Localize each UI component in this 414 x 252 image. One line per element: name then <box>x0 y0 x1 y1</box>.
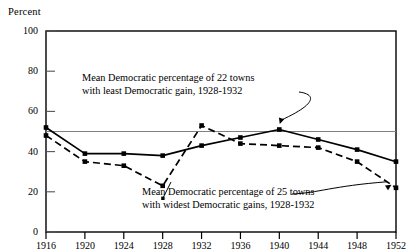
series-marker-1 <box>122 151 127 156</box>
series-marker-1 <box>160 153 165 158</box>
series-line-1 <box>46 128 396 162</box>
x-tick-label: 1940 <box>259 240 299 251</box>
y-tick-label: 20 <box>10 186 38 197</box>
x-tick-label: 1948 <box>337 240 377 251</box>
series-marker-2 <box>44 133 49 138</box>
y-tick-label: 40 <box>10 146 38 157</box>
series-marker-2 <box>355 159 360 164</box>
annotation-least-gain-line1: Mean Democratic percentage of 22 towns <box>82 72 254 85</box>
annotation-widest-gain-line2: with widest Democratic gains, 1928-1932 <box>142 199 314 212</box>
x-tick-label: 1916 <box>26 240 66 251</box>
chart-figure: Percent 020406080100 1916192019241928193… <box>0 0 414 252</box>
series-marker-1 <box>199 143 204 148</box>
series-line-2 <box>46 126 396 188</box>
series-marker-1 <box>394 159 399 164</box>
x-tick-label: 1932 <box>182 240 222 251</box>
series-marker-2 <box>122 163 127 168</box>
annotation-least-gain: Mean Democratic percentage of 22 towns w… <box>82 72 254 97</box>
series-marker-2 <box>394 186 399 191</box>
y-tick-label: 100 <box>10 25 38 36</box>
y-tick-label: 0 <box>10 226 38 237</box>
y-tick-label: 80 <box>10 65 38 76</box>
series-marker-1 <box>316 137 321 142</box>
x-tick-label: 1920 <box>65 240 105 251</box>
annotation-leader-least-gain <box>280 92 310 120</box>
x-tick-label: 1952 <box>376 240 414 251</box>
series-marker-2 <box>199 123 204 128</box>
series-marker-1 <box>355 147 360 152</box>
annotation-widest-gain-line1: Mean Democratic percentage of 25 towns <box>142 186 314 199</box>
y-tick-label: 60 <box>10 105 38 116</box>
x-tick-label: 1944 <box>298 240 338 251</box>
x-tick-label: 1936 <box>220 240 260 251</box>
series-marker-1 <box>238 135 243 140</box>
annotation-arrowhead-widest-gain <box>385 185 392 190</box>
series-marker-2 <box>316 145 321 150</box>
annotation-least-gain-line2: with least Democratic gain, 1928-1932 <box>82 85 254 98</box>
series-marker-1 <box>83 151 88 156</box>
annotation-widest-gain: Mean Democratic percentage of 25 towns w… <box>142 186 314 211</box>
series-marker-2 <box>277 143 282 148</box>
series-marker-1 <box>277 127 282 132</box>
x-tick-label: 1928 <box>143 240 183 251</box>
series-marker-2 <box>238 141 243 146</box>
line-chart-canvas <box>0 0 414 252</box>
series-marker-1 <box>44 125 49 130</box>
series-marker-2 <box>83 159 88 164</box>
x-tick-label: 1924 <box>104 240 144 251</box>
